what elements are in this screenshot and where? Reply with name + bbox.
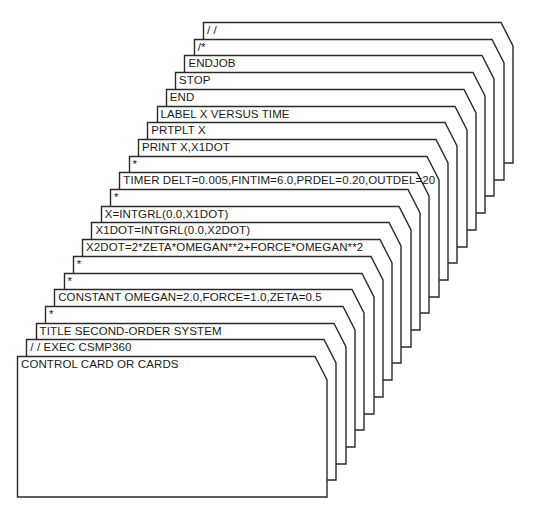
card-label: END — [170, 90, 195, 105]
card-label: CONTROL CARD OR CARDS — [21, 357, 179, 372]
card-label: /* — [198, 40, 206, 55]
card-label: LABEL X VERSUS TIME — [161, 107, 290, 122]
card-label: CONSTANT OMEGAN=2.0,FORCE=1.0,ZETA=0.5 — [58, 290, 322, 305]
card-label: / / EXEC CSMP360 — [30, 340, 131, 355]
card-label: * — [114, 190, 119, 205]
card-label: PRINT X,X1DOT — [142, 140, 230, 155]
card-label: / / — [207, 23, 217, 38]
card-outline-icon — [17, 356, 329, 499]
card-label: * — [49, 307, 54, 322]
card-label: * — [133, 157, 138, 172]
card-deck-diagram: / //*ENDJOBSTOPENDLABEL X VERSUS TIMEPRT… — [0, 0, 538, 516]
card-label: PRTPLT X — [151, 123, 206, 138]
card-label: ENDJOB — [188, 56, 235, 71]
card-label: TIMER DELT=0.005,FINTIM=6.0,PRDEL=0.20,O… — [123, 173, 435, 188]
card-label: STOP — [179, 73, 211, 88]
punched-card: CONTROL CARD OR CARDS — [17, 356, 329, 498]
card-label: X1DOT=INTGRL(0.0,X2DOT) — [95, 223, 250, 238]
card-label: * — [68, 274, 73, 289]
card-label: X2DOT=2*ZETA*OMEGAN**2+FORCE*OMEGAN**2 — [86, 240, 363, 255]
card-label: X=INTGRL(0.0,X1DOT) — [105, 207, 229, 222]
card-label: * — [77, 257, 82, 272]
card-label: TITLE SECOND-ORDER SYSTEM — [40, 324, 222, 339]
